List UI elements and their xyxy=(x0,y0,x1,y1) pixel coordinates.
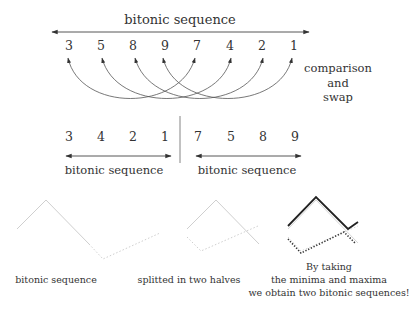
compare-arc-5-4 xyxy=(102,58,231,99)
ascending-descending-line xyxy=(17,200,89,244)
svg-text:swap: swap xyxy=(323,90,353,104)
dotted-tail-line xyxy=(89,233,160,259)
svg-text:comparison: comparison xyxy=(304,61,372,75)
caption-bitonic-sequence: bitonic sequence xyxy=(15,274,97,285)
seq-item: 7 xyxy=(194,129,202,144)
first-half-line xyxy=(187,200,259,244)
seq-item: 4 xyxy=(226,38,234,53)
seq-item: 7 xyxy=(193,38,201,53)
maxima-line xyxy=(288,197,358,229)
top-sequence: 3 5 8 9 7 4 2 1 xyxy=(65,38,298,53)
seq-item: 5 xyxy=(97,38,105,53)
panel-min-max: By taking the minima and maxima we obtai… xyxy=(248,197,409,298)
second-half-line xyxy=(187,226,258,251)
seq-item: 3 xyxy=(65,38,73,53)
seq-item: 8 xyxy=(259,129,267,144)
seq-item: 2 xyxy=(129,129,137,144)
seq-item: 4 xyxy=(97,129,105,144)
seq-item: 9 xyxy=(161,38,169,53)
left-half-label: bitonic sequence xyxy=(65,163,164,177)
seq-item: 9 xyxy=(291,129,299,144)
seq-item: 1 xyxy=(290,38,298,53)
compare-arc-9-1 xyxy=(163,58,292,99)
panel-bitonic-sequence: bitonic sequence xyxy=(15,200,160,285)
comparison-arcs xyxy=(68,58,292,99)
panel-split-halves: splitted in two halves xyxy=(138,200,259,285)
seq-item: 3 xyxy=(65,129,73,144)
top-title: bitonic sequence xyxy=(124,12,236,27)
compare-arc-3-7 xyxy=(68,58,195,99)
caption-min-max-line3: we obtain two bitonic sequences! xyxy=(248,287,409,298)
seq-item: 1 xyxy=(161,129,169,144)
comparison-label: comparison and swap xyxy=(304,61,372,104)
caption-min-max-line2: the minima and maxima xyxy=(271,274,387,285)
seq-item: 8 xyxy=(129,38,137,53)
right-half-label: bitonic sequence xyxy=(198,163,297,177)
svg-text:and: and xyxy=(327,76,349,90)
seq-item: 5 xyxy=(227,129,235,144)
left-half-sequence: 3 4 2 1 xyxy=(65,129,169,144)
caption-min-max-line1: By taking xyxy=(306,261,352,272)
caption-split-halves: splitted in two halves xyxy=(138,274,241,285)
minima-line xyxy=(288,232,356,253)
right-half-sequence: 7 5 8 9 xyxy=(194,129,299,144)
seq-item: 2 xyxy=(258,38,266,53)
bitonic-sort-diagram: bitonic sequence 3 5 8 9 7 4 2 1 compari… xyxy=(0,0,417,309)
